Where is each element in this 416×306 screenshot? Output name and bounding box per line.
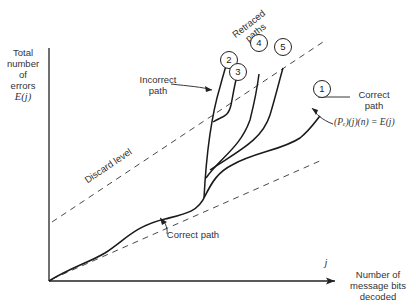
incorrect-arrowhead-icon <box>205 86 212 92</box>
node-3: 3 <box>229 63 247 81</box>
correct-path-curve <box>49 116 320 281</box>
correct-label-line: path <box>352 100 396 111</box>
y-label-line: errors <box>0 80 46 91</box>
correct-label-line: Correct <box>352 89 396 100</box>
retraced-path-4 <box>206 74 259 178</box>
node-4: 4 <box>250 34 268 52</box>
node-1: 1 <box>313 80 331 98</box>
incorrect-label-line: Incorrect <box>137 74 179 85</box>
y-axis-symbol: E(j) <box>0 91 46 102</box>
correct-path-bottom-label: Correct path <box>158 229 228 240</box>
x-axis-symbol: j <box>320 257 332 268</box>
y-label-line: number <box>0 58 46 69</box>
x-label-line: decoded <box>343 291 413 302</box>
y-label-line: of <box>0 69 46 80</box>
x-axis-label: Number of message bits decoded <box>343 269 413 302</box>
y-axis-label: Total number of errors E(j) <box>0 47 46 102</box>
node-5: 5 <box>274 38 292 56</box>
x-label-line: Number of <box>343 269 413 280</box>
equation-label: (Pₑ)(j)(n) = E(j) <box>334 117 416 128</box>
incorrect-path-label: Incorrect path <box>137 74 179 96</box>
y-label-line: Total <box>0 47 46 58</box>
incorrect-label-line: path <box>137 85 179 96</box>
correct-path-right-label: Correct path <box>352 89 396 111</box>
diagram-canvas <box>0 0 416 306</box>
x-label-line: message bits <box>343 280 413 291</box>
